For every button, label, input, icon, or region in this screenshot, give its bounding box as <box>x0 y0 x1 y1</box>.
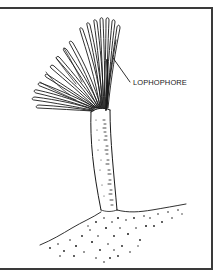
stalk-texture <box>103 120 113 205</box>
lophophore-tentacles-back <box>80 18 120 108</box>
sediment-speckles <box>49 209 183 263</box>
drawing-canvas <box>0 0 218 279</box>
sediment-mound-outline <box>40 204 186 245</box>
lophophore-label: LOPHOPHORE <box>133 79 187 87</box>
leader-line <box>113 58 130 82</box>
phoronid-illustration: LOPHOPHORE <box>0 0 218 279</box>
